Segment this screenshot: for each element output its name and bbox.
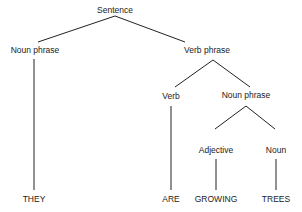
leaf-are: ARE: [162, 194, 180, 204]
node-noun-phrase-right: Noun phrase: [222, 90, 271, 100]
leaf-growing: GROWING: [195, 194, 238, 204]
node-verb-phrase: Verb phrase: [184, 45, 230, 55]
node-adjective: Adjective: [199, 145, 234, 155]
edge-np-adjective: [215, 106, 246, 129]
edge-vp-np: [213, 60, 250, 87]
node-sentence: Sentence: [97, 5, 133, 15]
leaf-they: THEY: [23, 194, 46, 204]
edge-np-noun: [246, 106, 275, 129]
edge-vp-verb: [175, 60, 213, 87]
edge-sentence-vp: [115, 16, 185, 42]
leaf-trees: TREES: [262, 194, 291, 204]
node-verb: Verb: [162, 91, 180, 101]
edge-sentence-np: [38, 16, 115, 42]
node-noun-phrase-left: Noun phrase: [11, 45, 60, 55]
parse-tree-diagram: Sentence Noun phrase Verb phrase Verb No…: [0, 0, 302, 212]
node-noun: Noun: [266, 145, 287, 155]
